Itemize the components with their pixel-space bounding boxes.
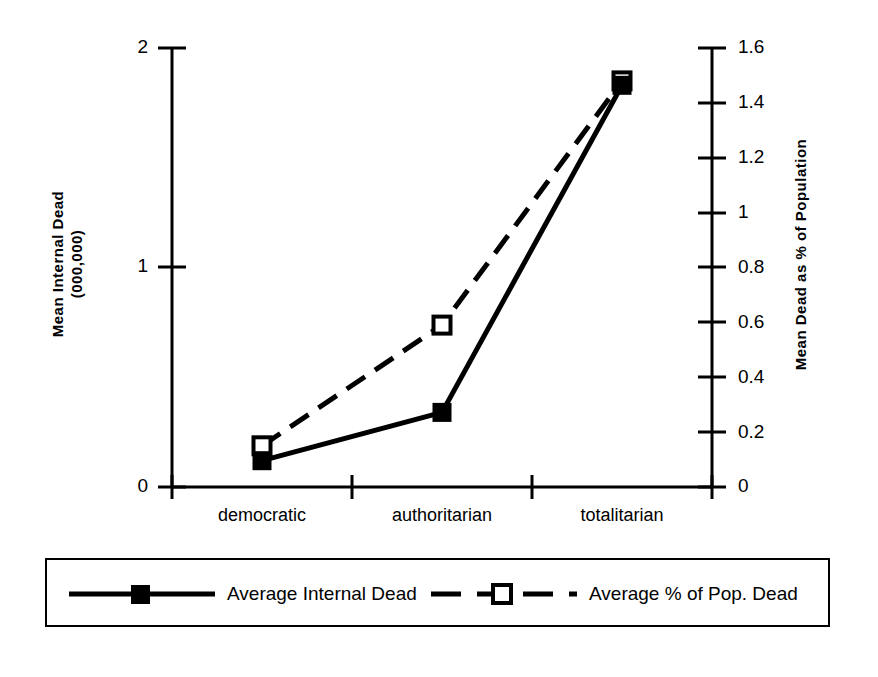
legend-label-average-pct-pop-dead: Average % of Pop. Dead [589,583,798,605]
legend-swatch-dashed-open-square [429,583,579,605]
series-average-pct-pop-dead-line [262,81,622,446]
x-category-label-democratic: democratic [182,505,342,526]
data-point-dead-authoritarian [433,403,452,422]
data-point-dead-totalitarian [613,76,632,95]
legend-item-average-pct-pop-dead: Average % of Pop. Dead [429,580,798,608]
legend-label-average-internal-dead: Average Internal Dead [227,583,417,605]
plot-area [0,0,878,540]
data-point-pct-authoritarian [434,317,451,334]
chart-figure: Mean Internal Dead (000,000) Mean Dead a… [0,0,878,677]
legend-item-average-internal-dead: Average Internal Dead [67,580,417,608]
x-category-label-totalitarian: totalitarian [542,505,702,526]
data-point-dead-democratic [253,451,272,470]
legend-swatch-solid-filled-square [67,583,217,605]
x-category-label-authoritarian: authoritarian [362,505,522,526]
series-average-internal-dead-markers [253,76,632,470]
series-average-pct-pop-dead-markers [254,72,631,454]
legend: Average Internal Dead Average % of Pop. … [45,558,830,627]
